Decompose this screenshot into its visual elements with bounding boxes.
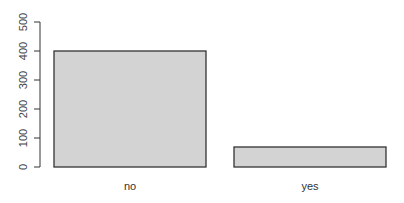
x-category-label: yes	[301, 180, 319, 192]
y-tick-label: 200	[17, 100, 29, 118]
y-tick-label: 0	[17, 164, 29, 170]
x-category-label: no	[124, 180, 136, 192]
x-axis-labels: noyes	[124, 180, 319, 192]
y-tick-label: 500	[17, 13, 29, 31]
y-tick-label: 400	[17, 42, 29, 60]
bar-chart: 0100200300400500 noyes	[0, 0, 404, 203]
bars	[54, 51, 386, 167]
y-tick-label: 100	[17, 129, 29, 147]
bar-yes	[234, 147, 386, 167]
y-axis: 0100200300400500	[17, 13, 40, 170]
bar-no	[54, 51, 206, 167]
y-tick-label: 300	[17, 71, 29, 89]
